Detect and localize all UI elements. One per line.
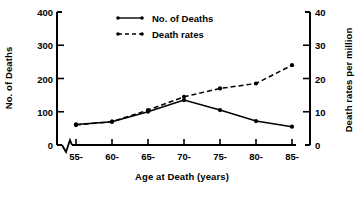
left-axis: [57, 12, 64, 145]
data-point: [218, 108, 222, 112]
data-point: [290, 125, 294, 129]
data-point: [182, 95, 186, 99]
data-point: [254, 119, 258, 123]
left-tick-400: 400: [37, 7, 53, 18]
right-axis: [303, 12, 310, 145]
data-point: [290, 63, 294, 67]
legend-item-deaths: No. of Deaths: [116, 13, 213, 24]
left-tick-300: 300: [37, 40, 53, 51]
legend-label-deaths: No. of Deaths: [152, 13, 213, 24]
chart-svg: 400 300 200 100 0 No. of Deaths 55- 60- …: [0, 0, 364, 198]
left-axis-title: No. of Deaths: [3, 47, 14, 110]
x-tick-70: 70-: [177, 151, 191, 162]
right-tick-20: 20: [315, 74, 326, 85]
legend-label-rates: Death rates: [152, 29, 204, 40]
x-tick-75: 75-: [213, 151, 227, 162]
right-tick-30: 30: [315, 40, 326, 51]
left-tick-100: 100: [37, 107, 53, 118]
data-point: [146, 108, 150, 112]
legend-marker-dot-icon: [140, 16, 144, 20]
right-tick-40: 40: [315, 7, 326, 18]
x-tick-85: 85-: [285, 151, 299, 162]
legend: No. of Deaths Death rates: [116, 13, 213, 40]
right-tick-0: 0: [315, 140, 320, 151]
legend-marker-dot-icon: [140, 32, 144, 36]
right-axis-title: Death rates per million: [343, 28, 354, 133]
x-axis-title: Age at Death (years): [135, 171, 229, 182]
data-point: [74, 123, 78, 127]
x-tick-60: 60-: [105, 151, 119, 162]
left-tick-0: 0: [48, 140, 53, 151]
legend-item-rates: Death rates: [116, 29, 204, 40]
data-point: [218, 86, 222, 90]
chart-figure: 400 300 200 100 0 No. of Deaths 55- 60- …: [0, 0, 364, 198]
data-point: [254, 81, 258, 85]
data-point: [110, 120, 114, 124]
x-tick-80: 80-: [249, 151, 263, 162]
x-tick-55: 55-: [69, 151, 83, 162]
right-tick-10: 10: [315, 107, 326, 118]
left-tick-200: 200: [37, 74, 53, 85]
x-tick-65: 65-: [141, 151, 155, 162]
plot-area: [74, 63, 294, 129]
